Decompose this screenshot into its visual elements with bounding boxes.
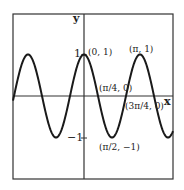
y-tick-label-neg1: −1 xyxy=(67,133,83,143)
point-label-3pi4-0: (3π/4, 0) xyxy=(125,101,164,111)
point-label-pi2-neg1: (π/2, −1) xyxy=(99,142,140,152)
point-label-0-1: (0, 1) xyxy=(88,47,112,57)
point-label-pi4-0: (π/4, 0) xyxy=(99,83,132,93)
x-axis-label: x xyxy=(164,97,171,107)
point-label-pi-1: (π, 1) xyxy=(129,44,153,54)
y-axis-label: y xyxy=(73,14,79,24)
y-tick-label-1: 1 xyxy=(74,49,81,59)
graph-canvas xyxy=(0,0,184,190)
